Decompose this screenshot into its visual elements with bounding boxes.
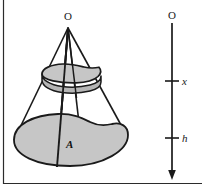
cross-section-slab <box>42 64 101 93</box>
apex-label: O <box>64 10 72 22</box>
base-region-label: A <box>65 138 73 150</box>
axis-tick-x-label: x <box>181 75 187 87</box>
axis-origin-label: O <box>168 9 176 21</box>
apex-point <box>67 27 69 29</box>
cone-cross-section-diagram: A O O x h <box>0 0 202 188</box>
axis-tick-h-label: h <box>182 132 188 144</box>
figure-container: A O O x h <box>0 0 202 188</box>
